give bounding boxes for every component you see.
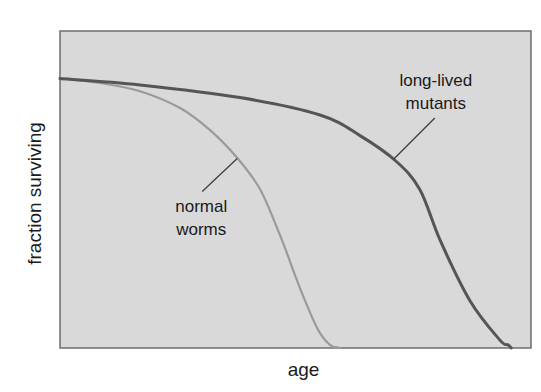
y-axis-label: fraction surviving [24,122,45,265]
annotation-label-long-lived-mutants: mutants [406,94,466,113]
annotation-label-normal-worms: worms [175,220,226,239]
annotation-label-long-lived-mutants: long-lived [399,71,472,90]
x-axis-label: age [288,359,320,380]
annotation-label-normal-worms: normal [175,197,227,216]
survival-chart: normalwormslong-livedmutants age fractio… [0,0,541,392]
